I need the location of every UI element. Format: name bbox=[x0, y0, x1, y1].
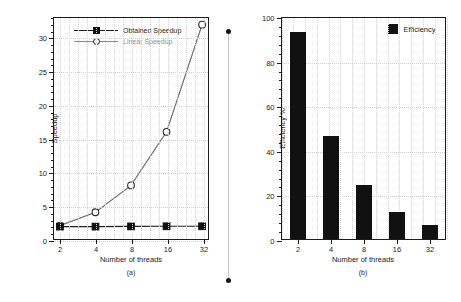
y-tick-minor bbox=[51, 227, 54, 228]
y-tick-minor bbox=[51, 25, 54, 26]
filled-square-icon bbox=[388, 24, 398, 34]
y-tick-major bbox=[277, 107, 282, 108]
y-tick-minor bbox=[279, 125, 282, 126]
y-tick-major bbox=[49, 106, 54, 107]
y-tick-major bbox=[277, 152, 282, 153]
y-tick-minor bbox=[279, 232, 282, 233]
x-tick bbox=[397, 239, 398, 244]
y-axis-title-b: Efficiency % bbox=[277, 90, 286, 166]
y-tick-minor bbox=[51, 52, 54, 53]
y-tick-major bbox=[277, 18, 282, 19]
gridline-vertical bbox=[340, 18, 341, 239]
x-tick bbox=[298, 239, 299, 244]
y-tick-minor bbox=[279, 36, 282, 37]
efficiency-plot-area: Efficiency Efficiency % Number of thread… bbox=[281, 17, 446, 240]
y-tick-minor bbox=[51, 146, 54, 147]
y-tick-minor bbox=[279, 170, 282, 171]
bar-2-threads bbox=[290, 32, 306, 239]
y-tick-minor bbox=[51, 32, 54, 33]
y-tick-minor bbox=[51, 180, 54, 181]
y-tick-label: 20 bbox=[266, 192, 274, 201]
y-tick-minor bbox=[51, 18, 54, 19]
subcaption-a: (a) bbox=[127, 269, 136, 276]
y-tick-label: 60 bbox=[266, 103, 274, 112]
y-tick-minor bbox=[51, 59, 54, 60]
figure-container: Obtained Speedup Linear Speedup Speedup … bbox=[0, 0, 461, 302]
y-tick-minor bbox=[51, 194, 54, 195]
y-tick-minor bbox=[279, 143, 282, 144]
data-point-marker bbox=[57, 223, 64, 230]
y-tick-major bbox=[49, 72, 54, 73]
data-point-marker bbox=[163, 223, 170, 230]
y-tick-minor bbox=[279, 98, 282, 99]
y-tick-major bbox=[277, 196, 282, 197]
x-tick bbox=[60, 239, 61, 244]
y-tick-minor bbox=[51, 65, 54, 66]
x-tick-label: 16 bbox=[164, 245, 172, 254]
y-tick-label: 80 bbox=[266, 58, 274, 67]
data-point-marker bbox=[163, 128, 170, 135]
y-tick-minor bbox=[51, 79, 54, 80]
data-point-marker bbox=[128, 223, 135, 230]
panel-a: Obtained Speedup Linear Speedup Speedup … bbox=[0, 0, 231, 302]
gridline-vertical bbox=[352, 18, 353, 239]
y-tick-minor bbox=[51, 187, 54, 188]
x-tick-label: 2 bbox=[58, 245, 62, 254]
panel-b: Efficiency Efficiency % Number of thread… bbox=[231, 0, 461, 302]
y-tick-minor bbox=[279, 89, 282, 90]
gridline-vertical bbox=[399, 18, 400, 239]
y-tick-major bbox=[49, 207, 54, 208]
y-tick-minor bbox=[51, 86, 54, 87]
x-tick bbox=[204, 239, 205, 244]
y-tick-major bbox=[49, 173, 54, 174]
gridline-vertical bbox=[435, 18, 436, 239]
y-tick-label: 20 bbox=[39, 101, 47, 110]
y-tick-major bbox=[49, 140, 54, 141]
y-tick-major bbox=[277, 63, 282, 64]
y-tick-major bbox=[277, 241, 282, 242]
bar-32-threads bbox=[422, 225, 438, 239]
y-tick-minor bbox=[279, 223, 282, 224]
y-tick-label: 0 bbox=[43, 237, 47, 246]
x-tick-label: 4 bbox=[329, 245, 333, 254]
speedup-series-layer bbox=[54, 18, 208, 239]
x-axis-title-a: Number of threads bbox=[100, 255, 162, 264]
y-tick-minor bbox=[279, 161, 282, 162]
gridline-vertical bbox=[411, 18, 412, 239]
x-tick-label: 2 bbox=[296, 245, 300, 254]
gridline-vertical bbox=[317, 18, 318, 239]
y-tick-label: 25 bbox=[39, 68, 47, 77]
x-tick-label: 8 bbox=[130, 245, 134, 254]
subcaption-b: (b) bbox=[359, 269, 368, 276]
y-tick-minor bbox=[51, 167, 54, 168]
y-tick-minor bbox=[51, 200, 54, 201]
gridline-vertical bbox=[388, 18, 389, 239]
y-tick-minor bbox=[279, 205, 282, 206]
y-tick-major bbox=[49, 241, 54, 242]
data-point-marker bbox=[128, 182, 135, 189]
x-tick bbox=[430, 239, 431, 244]
x-axis-title-b: Number of threads bbox=[332, 255, 394, 264]
y-tick-minor bbox=[279, 27, 282, 28]
data-point-marker bbox=[199, 223, 206, 230]
y-tick-minor bbox=[51, 113, 54, 114]
y-tick-minor bbox=[279, 80, 282, 81]
y-tick-label: 40 bbox=[266, 147, 274, 156]
data-point-marker bbox=[92, 223, 99, 230]
x-tick-label: 32 bbox=[426, 245, 434, 254]
y-tick-label: 5 bbox=[43, 203, 47, 212]
y-tick-minor bbox=[51, 92, 54, 93]
y-axis-title-a: Speedup bbox=[50, 94, 59, 162]
gridline-vertical bbox=[423, 18, 424, 239]
y-tick-minor bbox=[51, 160, 54, 161]
y-tick-minor bbox=[279, 214, 282, 215]
y-tick-minor bbox=[279, 179, 282, 180]
legend-label: Efficiency bbox=[404, 25, 436, 34]
y-tick-minor bbox=[51, 234, 54, 235]
series-line bbox=[60, 25, 202, 226]
x-tick bbox=[96, 239, 97, 244]
y-tick-minor bbox=[51, 221, 54, 222]
y-tick-minor bbox=[51, 99, 54, 100]
y-tick-label: 10 bbox=[39, 169, 47, 178]
y-tick-label: 100 bbox=[262, 14, 275, 23]
